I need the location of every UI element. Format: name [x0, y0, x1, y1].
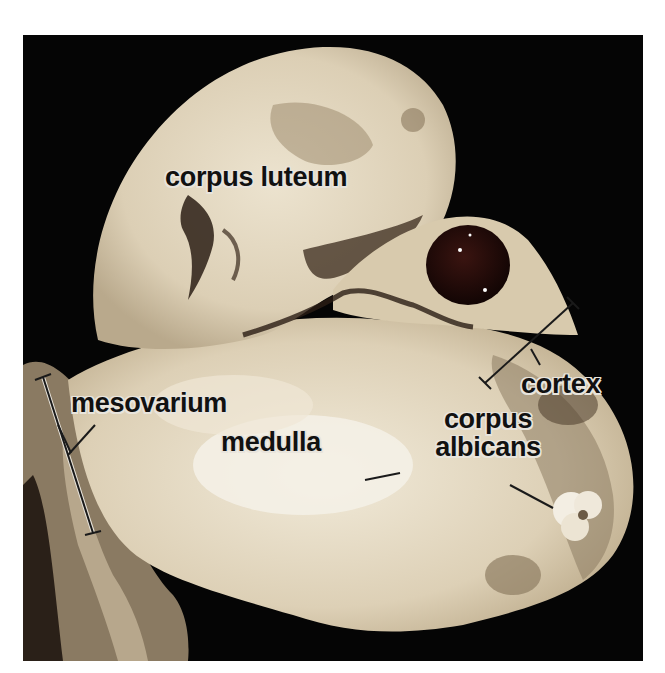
- specimen-illustration: [23, 35, 643, 661]
- label-corpus-luteum: corpus luteum: [165, 163, 347, 191]
- specimen-photo: corpus luteum mesovarium medulla cortex …: [23, 35, 643, 661]
- hemorrhagic-cyst: [426, 225, 510, 305]
- label-corpus-albicans-line2: albicans: [408, 433, 568, 461]
- label-corpus-albicans-line1: corpus: [408, 405, 568, 433]
- label-cortex: cortex: [521, 370, 600, 398]
- label-mesovarium: mesovarium: [71, 389, 227, 417]
- label-medulla: medulla: [221, 428, 321, 456]
- label-corpus-albicans: corpus albicans: [408, 405, 568, 461]
